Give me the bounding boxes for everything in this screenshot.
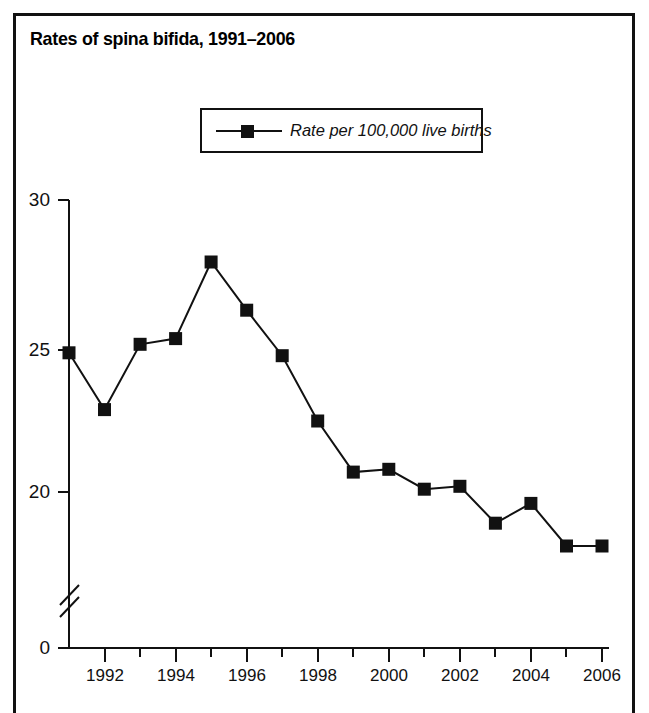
data-point-marker [596, 540, 609, 553]
data-point-marker [524, 497, 537, 510]
x-tick-label-2002: 2002 [430, 666, 490, 686]
data-point-marker [311, 415, 324, 428]
data-point-marker [560, 540, 573, 553]
data-point-marker [276, 349, 289, 362]
data-point-marker [134, 338, 147, 351]
data-point-marker [418, 483, 431, 496]
x-tick-label-2000: 2000 [359, 666, 419, 686]
data-point-marker [98, 403, 111, 416]
x-tick-label-1996: 1996 [217, 666, 277, 686]
x-axis [69, 648, 609, 662]
x-tick-label-1994: 1994 [146, 666, 206, 686]
data-line [69, 262, 602, 546]
x-tick-label-2006: 2006 [572, 666, 632, 686]
y-axis [58, 200, 79, 648]
data-point-marker [453, 480, 466, 493]
data-point-marker [382, 463, 395, 476]
data-point-marker [240, 304, 253, 317]
x-tick-label-1998: 1998 [288, 666, 348, 686]
y-tick-label-30: 30 [6, 189, 50, 211]
data-point-marker [489, 517, 502, 530]
y-tick-label-0: 0 [6, 637, 50, 659]
data-point-marker [63, 346, 76, 359]
data-point-marker [347, 466, 360, 479]
data-point-marker [205, 256, 218, 269]
x-tick-label-1992: 1992 [75, 666, 135, 686]
data-markers [63, 256, 609, 553]
x-tick-label-2004: 2004 [501, 666, 561, 686]
y-tick-label-25: 25 [6, 339, 50, 361]
y-tick-label-20: 20 [6, 481, 50, 503]
data-point-marker [169, 332, 182, 345]
